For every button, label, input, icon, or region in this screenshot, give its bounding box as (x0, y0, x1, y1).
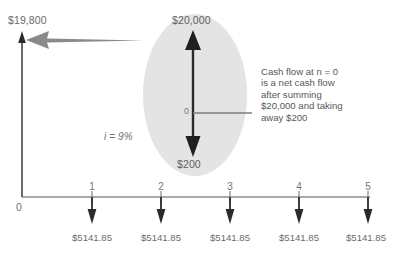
tick-label-4: 4 (296, 181, 302, 192)
annotation-line: after summing (261, 89, 397, 100)
interest-rate-label: i = 9% (104, 131, 133, 142)
cash-flow-diagram: $19,800 $20,000 $200 0 0 i = 9% Cash flo… (0, 0, 400, 254)
tick-label-5: 5 (365, 181, 371, 192)
net-inflow-arrow (18, 31, 26, 197)
annotation-line: $20,000 and taking (261, 100, 397, 111)
payment-arrows (88, 197, 373, 224)
diagram-canvas (0, 0, 400, 254)
tick-label-1: 1 (89, 181, 95, 192)
tick-label-2: 2 (158, 181, 164, 192)
origin-label: 0 (16, 201, 22, 213)
net-inflow-label: $19,800 (8, 14, 47, 26)
payment-arrow-2 (157, 197, 166, 224)
callout-baseline-label: 0 (184, 106, 189, 116)
payment-label-1: $5141.85 (72, 232, 112, 243)
annotation-line: is a net cash flow (261, 77, 397, 88)
payment-label-3: $5141.85 (210, 232, 250, 243)
payment-label-5: $5141.85 (346, 232, 386, 243)
callout-bottom-amount-label: $200 (177, 158, 201, 170)
annotation-note: Cash flow at n = 0 is a net cash flow af… (261, 66, 397, 123)
payment-label-2: $5141.85 (141, 232, 181, 243)
payment-label-4: $5141.85 (279, 232, 319, 243)
annotation-line: Cash flow at n = 0 (261, 66, 397, 77)
payment-arrow-1 (88, 197, 97, 224)
annotation-line: away $200 (261, 112, 397, 123)
tick-label-3: 3 (227, 181, 233, 192)
payment-arrow-3 (226, 197, 235, 224)
payment-arrow-4 (295, 197, 304, 224)
callout-pointer-arrow (26, 31, 143, 49)
callout-top-amount-label: $20,000 (172, 14, 211, 26)
payment-arrow-5 (364, 197, 373, 224)
